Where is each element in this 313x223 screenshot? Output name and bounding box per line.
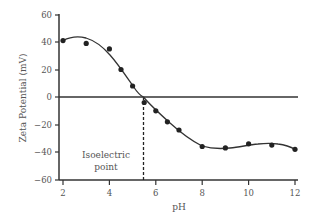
x-tick-labels: 2 4 6 8 10 12 (60, 188, 300, 198)
x-axis-title: pH (172, 202, 186, 212)
y-tick-label: 0 (47, 92, 52, 102)
x-tick-label: 2 (60, 188, 65, 198)
x-tick-label: 8 (199, 188, 204, 198)
annotation-point: point (94, 162, 118, 172)
x-tick-label: 12 (290, 188, 301, 198)
x-tick-label: 10 (243, 188, 254, 198)
y-tick-label: −60 (34, 175, 52, 185)
y-tick-label: 20 (41, 65, 52, 75)
y-tick-label: 40 (41, 37, 52, 47)
y-tick-label: −20 (34, 120, 52, 130)
y-tick-labels: 60 40 20 0 −20 −40 −60 (34, 10, 52, 185)
x-tick-label: 6 (153, 188, 158, 198)
y-axis-title: Zeta Potential (mV) (18, 54, 28, 143)
y-tick-label: 60 (41, 10, 52, 20)
zeta-potential-chart: 60 40 20 0 −20 −40 −60 2 4 6 8 10 12 pH … (0, 0, 313, 223)
data-points (60, 38, 297, 152)
annotation-isoelectric: Isoelectric (82, 150, 130, 160)
x-tick-label: 4 (107, 188, 112, 198)
y-tick-label: −40 (34, 147, 52, 157)
